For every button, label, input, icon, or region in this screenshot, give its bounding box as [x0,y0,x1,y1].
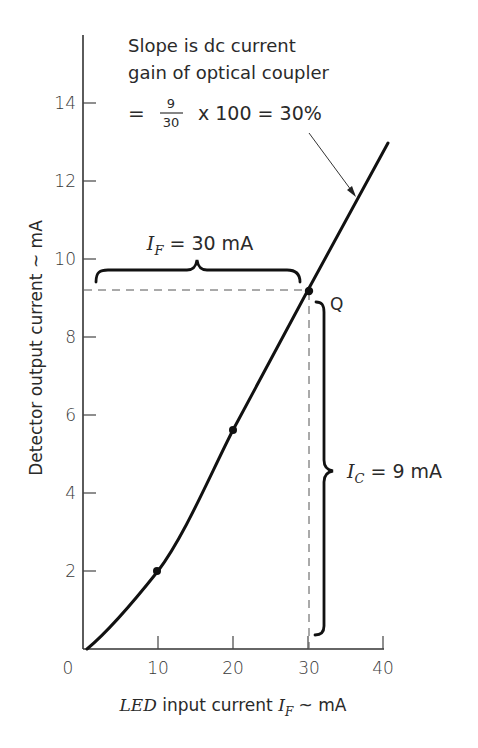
arrow-head-icon [347,186,356,197]
y-tick-label: 4 [65,483,76,503]
y-tick-labels: 2 4 6 8 10 12 14 [54,93,76,581]
slope-eq-suffix: x 100 = 30% [198,102,322,124]
axes [83,35,384,649]
if-brace [96,260,300,282]
if-value: = 30 mA [163,232,253,254]
data-point-q [305,287,313,295]
x-tick-label: 30 [298,658,320,678]
slope-arrow [309,133,356,197]
x-tick-label: 0 [63,658,74,678]
x-axis-title-middle: input current [157,695,278,715]
ic-value: = 9 mA [364,460,442,482]
ic-brace [315,302,333,635]
y-tick-label: 10 [54,249,76,269]
x-axis-title-suffix: ~ mA [293,695,347,715]
y-tick-label: 2 [65,561,76,581]
y-ticks [83,103,96,571]
y-tick-label: 8 [65,327,76,347]
q-label: Q [330,294,343,314]
arrow-shaft [309,133,354,194]
x-ticks [158,636,383,649]
y-tick-label: 6 [65,405,76,425]
slope-eq-prefix: = [128,101,145,125]
x-tick-labels: 0 10 20 30 40 [63,658,394,678]
x-axis-title: LED input current IF ~ mA [119,695,347,719]
x-axis-title-italic: LED [119,695,158,715]
slope-note-line2: gain of optical coupler [128,62,330,83]
y-tick-label: 12 [54,171,76,191]
slope-annotation: Slope is dc current gain of optical coup… [128,35,330,130]
data-point-10 [153,567,161,575]
x-tick-label: 20 [222,658,244,678]
y-tick-label: 14 [54,93,76,113]
slope-eq-numerator: 9 [167,96,175,111]
q-guide-lines [84,290,309,648]
if-brace-label: IF = 30 mA [146,232,253,258]
slope-eq-denominator: 30 [163,115,180,130]
ic-subscript: C [355,471,365,486]
x-tick-label: 10 [147,658,169,678]
chart: 2 4 6 8 10 12 14 0 10 20 30 40 Detector … [0,0,478,748]
transfer-curve [87,143,388,649]
ic-brace-label: IC = 9 mA [346,460,442,486]
x-tick-label: 40 [372,658,394,678]
y-axis-title: Detector output current ~ mA [26,220,46,476]
data-point-20 [229,426,237,434]
slope-note-line1: Slope is dc current [128,35,296,56]
